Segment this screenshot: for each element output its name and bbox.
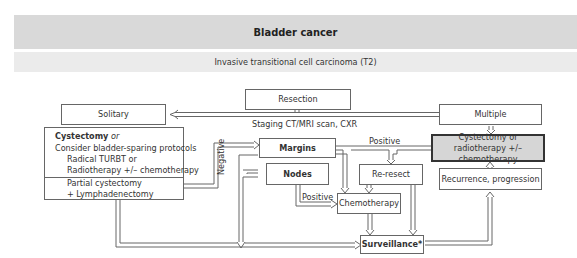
reresect-label: Re-resect	[372, 169, 410, 180]
lymphadenectomy-option: + Lymphadenectomy	[67, 189, 153, 199]
or-connector: or	[108, 131, 119, 141]
positive-margins-label: Positive	[369, 136, 400, 146]
margins-box: Margins	[259, 138, 336, 158]
radical-turbt-option: Radical TURBT or	[67, 154, 137, 164]
multiple-box: Multiple	[439, 104, 542, 125]
recurrence-label: Recurrence, progression	[441, 174, 539, 185]
surveillance-label: Surveillance*	[362, 239, 422, 250]
positive-nodes-label: Positive	[302, 192, 333, 202]
margins-label: Margins	[279, 143, 316, 154]
cystectomy-radio-line2: radiotherapy +/– chemotherapy	[433, 143, 543, 165]
nodes-label: Nodes	[283, 169, 311, 180]
chemotherapy-box: Chemotherapy	[337, 193, 401, 214]
chemotherapy-label: Chemotherapy	[339, 198, 399, 209]
resection-label: Resection	[278, 94, 317, 105]
radiotherapy-option: Radiotherapy +/– chemotherapy	[67, 165, 199, 175]
cystectomy-radiotherapy-box: Cystectomy or radiotherapy +/– chemother…	[431, 134, 545, 162]
cystectomy-option: Cystectomy	[55, 131, 108, 141]
negative-label: Negative	[216, 139, 226, 175]
recurrence-box: Recurrence, progression	[439, 168, 542, 190]
partial-cystectomy-option: Partial cystectomy	[67, 178, 142, 188]
bladder-sparing-label: Consider bladder-sparing protocols	[55, 143, 197, 153]
resection-box: Resection	[245, 89, 351, 110]
surveillance-box: Surveillance*	[360, 235, 424, 254]
multiple-label: Multiple	[474, 109, 506, 120]
solitary-box: Solitary	[61, 104, 166, 125]
treatment-options-box: Cystectomy or Consider bladder-sparing p…	[44, 127, 184, 200]
staging-label: Staging CT/MRI scan, CXR	[252, 119, 357, 129]
reresect-box: Re-resect	[359, 164, 423, 185]
solitary-label: Solitary	[98, 109, 129, 120]
cystectomy-radio-line1: Cystectomy or	[459, 132, 518, 143]
nodes-box: Nodes	[266, 163, 329, 185]
